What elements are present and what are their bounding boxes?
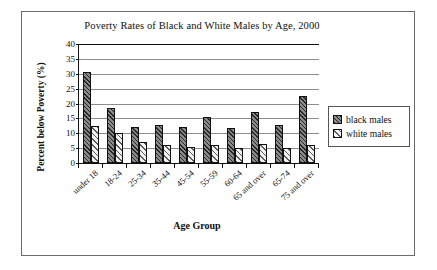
y-tick-label: 10 [66, 128, 75, 138]
y-tick-label: 40 [66, 39, 75, 49]
bar-groups [79, 44, 319, 163]
bar-black-males [275, 125, 283, 163]
x-axis-tick-labels: under 1818-2425-3435-4445-5455-5960-6465… [78, 168, 319, 228]
bar-black-males [131, 127, 139, 163]
x-axis-label: Age Group [62, 220, 332, 231]
chart-title: Poverty Rates of Black and White Males b… [22, 20, 382, 31]
bar-black-males [83, 72, 91, 163]
y-tick-label: 35 [66, 54, 75, 64]
plot-area: 0510152025303540 [78, 44, 319, 164]
y-tick-label: 20 [66, 99, 75, 109]
bar-group [83, 44, 99, 163]
y-tick-label: 0 [71, 158, 76, 168]
legend-item-black-males: black males [333, 114, 405, 125]
bar-group [299, 44, 315, 163]
bar-black-males [227, 128, 235, 163]
bar-group [155, 44, 171, 163]
x-tick-label: 35-44 [150, 168, 172, 189]
bar-white-males [283, 148, 291, 163]
bar-group [131, 44, 147, 163]
x-tick-label: 25-34 [126, 168, 148, 189]
bar-group [107, 44, 123, 163]
bar-white-males [139, 142, 147, 163]
bar-black-males [203, 117, 211, 163]
bar-black-males [155, 125, 163, 163]
x-tick-label: under 18 [70, 168, 99, 196]
legend-label-white-males: white males [346, 128, 392, 139]
x-tick-label: 55-59 [198, 168, 220, 189]
legend-swatch-white-males [333, 129, 342, 138]
y-tick-label: 30 [66, 69, 75, 79]
bar-white-males [307, 145, 315, 163]
chart-figure: Poverty Rates of Black and White Males b… [21, 11, 415, 256]
legend-item-white-males: white males [333, 128, 405, 139]
bar-white-males [235, 148, 243, 163]
bar-group [203, 44, 219, 163]
x-tick-label: 45-54 [174, 168, 196, 189]
bar-black-males [107, 108, 115, 163]
bar-white-males [259, 144, 267, 163]
chart-legend: black males white males [328, 106, 410, 147]
y-tick-label: 15 [66, 113, 75, 123]
legend-label-black-males: black males [346, 114, 392, 125]
bar-group [227, 44, 243, 163]
bar-white-males [187, 147, 195, 163]
bar-group [179, 44, 195, 163]
legend-swatch-black-males [333, 115, 342, 124]
y-tick-label: 25 [66, 84, 75, 94]
bar-black-males [299, 96, 307, 163]
bar-group [251, 44, 267, 163]
bar-black-males [251, 112, 259, 163]
y-axis-label: Percent below Poverty (%) [36, 42, 46, 192]
bar-white-males [211, 145, 219, 163]
bar-black-males [179, 127, 187, 163]
bar-white-males [115, 133, 123, 163]
y-tick-label: 5 [71, 143, 76, 153]
bar-white-males [163, 145, 171, 163]
bar-white-males [91, 126, 99, 163]
x-tick-label: 18-24 [102, 168, 124, 189]
bar-group [275, 44, 291, 163]
